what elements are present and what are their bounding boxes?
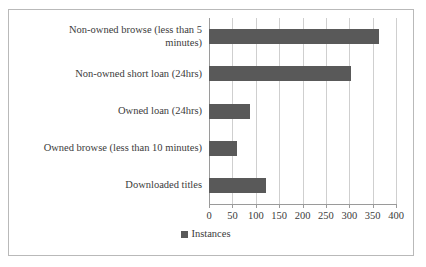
axis-tick-200 (303, 204, 304, 208)
bar-series-instances (209, 18, 396, 204)
chart-legend: Instances (0, 228, 426, 240)
legend-entry-instances: Instances (181, 228, 230, 240)
bar-row (209, 130, 396, 167)
axis-tick-label: 50 (227, 209, 238, 223)
bar-instances-0 (209, 29, 379, 44)
axis-tick-150 (279, 204, 280, 208)
axis-tick-label: 0 (206, 209, 211, 223)
bar-instances-2 (209, 104, 250, 119)
bar-instances-4 (209, 178, 266, 193)
category-label: Owned browse (less than 10 minutes) (44, 142, 202, 155)
bar-row (209, 55, 396, 92)
legend-label: Instances (191, 228, 230, 240)
bar-instances-3 (209, 141, 237, 156)
axis-tick-350 (373, 204, 374, 208)
category-tick-0: Non-owned browse (less than 5 minutes) (12, 18, 206, 55)
category-tick-2: Owned loan (24hrs) (12, 92, 206, 129)
axis-tick-label: 250 (318, 209, 334, 223)
axis-tick-label: 150 (271, 209, 287, 223)
chart-figure: Non-owned browse (less than 5 minutes) N… (0, 0, 426, 267)
axis-tick-label: 200 (295, 209, 311, 223)
category-axis: Non-owned browse (less than 5 minutes) N… (12, 18, 206, 204)
bar-row (209, 18, 396, 55)
axis-tick-250 (326, 204, 327, 208)
category-tick-1: Non-owned short loan (24hrs) (12, 55, 206, 92)
category-tick-3: Owned browse (less than 10 minutes) (12, 130, 206, 167)
axis-tick-label: 350 (365, 209, 381, 223)
axis-tick-label: 300 (341, 209, 357, 223)
category-tick-4: Downloaded titles (12, 167, 206, 204)
axis-tick-label: 400 (388, 209, 404, 223)
axis-tick-label: 100 (248, 209, 264, 223)
bar-instances-1 (209, 66, 351, 81)
gridline-400 (396, 18, 397, 204)
bar-row (209, 167, 396, 204)
value-axis-tick-labels: 050100150200250300350400 (209, 209, 396, 225)
axis-tick-400 (396, 204, 397, 208)
legend-swatch-icon (181, 231, 188, 238)
axis-tick-0 (209, 204, 210, 208)
plot-area (209, 18, 396, 204)
category-label: Non-owned browse (less than 5 minutes) (69, 24, 202, 49)
bar-row (209, 92, 396, 129)
chart-plot-wrapper: Non-owned browse (less than 5 minutes) N… (0, 0, 426, 267)
category-label: Owned loan (24hrs) (118, 105, 202, 118)
axis-tick-50 (232, 204, 233, 208)
category-label: Downloaded titles (125, 179, 202, 192)
category-label: Non-owned short loan (24hrs) (75, 68, 202, 81)
axis-tick-300 (349, 204, 350, 208)
axis-tick-100 (256, 204, 257, 208)
